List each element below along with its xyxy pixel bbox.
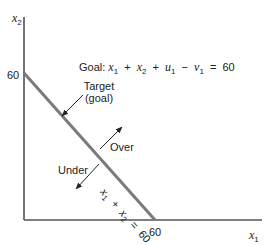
under-label: Under (58, 164, 88, 176)
target-label: Target (goal) (83, 80, 115, 104)
x-axis-sub: 1 (254, 235, 258, 244)
goal-diagram: x2 60 x1 60 Goal: x1 + x2 + u1 − v1 = 60… (0, 0, 276, 245)
goal-op-equals: = (207, 61, 219, 73)
y-axis-sub: 2 (17, 18, 21, 27)
goal-term-x2-sub: 2 (142, 67, 146, 76)
target-label-line1: Target (83, 80, 115, 92)
x-axis-label: x1 (249, 229, 259, 245)
goal-rhs: 60 (222, 61, 234, 73)
target-label-line2: (goal) (83, 92, 115, 104)
target-arrow (62, 95, 83, 116)
y-axis-tick-60: 60 (7, 69, 19, 81)
goal-term-u1-sub: 1 (171, 67, 175, 76)
diagram-canvas (0, 0, 276, 245)
goal-op-plus-2: + (150, 61, 162, 73)
goal-equation: Goal: x1 + x2 + u1 − v1 = 60 (79, 61, 235, 78)
goal-op-plus-1: + (121, 61, 133, 73)
over-label: Over (110, 141, 134, 153)
goal-prefix: Goal: (79, 61, 105, 73)
goal-op-minus: − (179, 61, 191, 73)
goal-term-x1-sub: 1 (114, 67, 118, 76)
goal-term-v1-sub: 1 (199, 67, 203, 76)
y-axis-label: x2 (12, 12, 22, 29)
